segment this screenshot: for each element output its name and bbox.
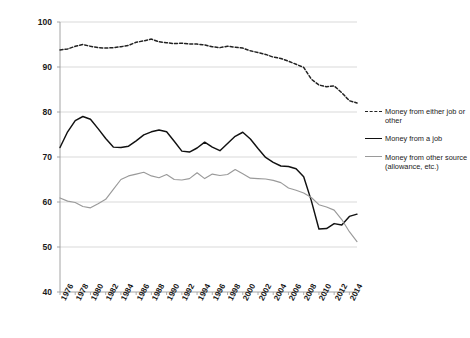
legend-item-money-from-a-job[interactable]: Money from a job — [365, 134, 469, 143]
y-axis-tick-label: 60 — [26, 197, 52, 207]
y-axis-tick-label: 80 — [26, 107, 52, 117]
dashed-line-swatch — [365, 111, 382, 112]
axis-lines-group — [57, 22, 60, 292]
y-axis-tick-label: 70 — [26, 152, 52, 162]
legend-label: Money from a job — [385, 134, 442, 143]
series-line — [60, 39, 357, 103]
y-axis-tick-label: 90 — [26, 62, 52, 72]
legend-label: Money from other source (allowance, etc.… — [385, 153, 467, 171]
y-axis-tick-label: 100 — [26, 17, 52, 27]
solid-gray-line-swatch — [365, 156, 382, 157]
solid-black-line-swatch — [365, 138, 382, 139]
y-axis-tick-label: 50 — [26, 242, 52, 252]
chart-screenshot: 405060708090100 197619781980198219841986… — [0, 0, 470, 338]
legend-item-money-from-other-source[interactable]: Money from other source (allowance, etc.… — [365, 153, 469, 171]
legend-item-either-job-or-other[interactable]: Money from either job or other — [365, 107, 469, 125]
gridlines-group — [60, 22, 357, 292]
series-group — [60, 39, 357, 242]
legend-label: Money from either job or other — [385, 107, 465, 125]
y-axis-tick-label: 40 — [26, 287, 52, 297]
series-line — [60, 117, 357, 230]
chart-legend: Money from either job or other Money fro… — [365, 107, 469, 180]
